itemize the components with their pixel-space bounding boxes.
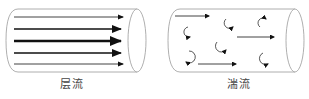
laminar-label: 层流 xyxy=(60,78,83,92)
turbulent-eddies xyxy=(184,18,268,65)
laminar-pipe xyxy=(6,9,146,72)
laminar-flow-arrows xyxy=(14,17,123,64)
turbulent-label: 湍流 xyxy=(227,78,250,92)
flow-diagram xyxy=(0,0,309,99)
turbulent-pipe xyxy=(168,9,304,72)
